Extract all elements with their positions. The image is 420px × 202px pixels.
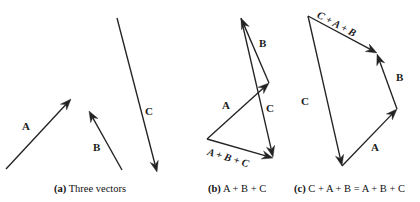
- vector-shaft: [117, 18, 155, 165]
- panel-a-label-B: B: [93, 142, 100, 153]
- panel-b-label-B: B: [259, 38, 266, 49]
- caption-b-text: A + B + C: [223, 183, 266, 194]
- caption-b-tag: (b): [208, 183, 221, 194]
- panel-b-label-C: C: [266, 103, 274, 114]
- panel-b-label-A: A: [222, 100, 230, 111]
- vector-shaft: [380, 61, 397, 109]
- panel-c-label-C: C: [301, 96, 309, 107]
- vector-b-B: [241, 18, 269, 83]
- vector-shaft: [207, 88, 263, 139]
- arrowhead-icon: [89, 111, 98, 123]
- vector-b-A: [207, 83, 269, 139]
- panel-a-label-A: A: [22, 121, 30, 132]
- vector-a-A: [6, 99, 71, 169]
- vector-shaft: [6, 104, 66, 169]
- panel-c-label-A: A: [371, 142, 379, 153]
- caption-panel-b: (b) A + B + C: [208, 184, 266, 195]
- vector-shaft: [244, 25, 269, 83]
- vector-addition-figure: A B C A B C A + B + C C A B C + A + B (a…: [0, 0, 420, 202]
- vector-a-C: [117, 18, 158, 172]
- arrowhead-icon: [365, 44, 377, 53]
- vector-c-C: [308, 16, 344, 166]
- caption-a-text: Three vectors: [69, 183, 126, 194]
- panel-a-label-C: C: [145, 106, 153, 117]
- panel-c-label-B: B: [396, 72, 403, 83]
- caption-c-tag: (c): [294, 183, 306, 194]
- vector-shaft: [308, 16, 340, 159]
- vector-c-A: [342, 109, 397, 166]
- caption-panel-c: (c) C + A + B = A + B + C: [294, 184, 405, 195]
- caption-panel-a: (a) Three vectors: [54, 184, 126, 195]
- vector-shaft: [342, 114, 392, 166]
- caption-c-text: C + A + B = A + B + C: [308, 183, 405, 194]
- caption-a-tag: (a): [54, 183, 66, 194]
- vector-c-B: [377, 54, 397, 109]
- vector-b-C: [241, 18, 275, 157]
